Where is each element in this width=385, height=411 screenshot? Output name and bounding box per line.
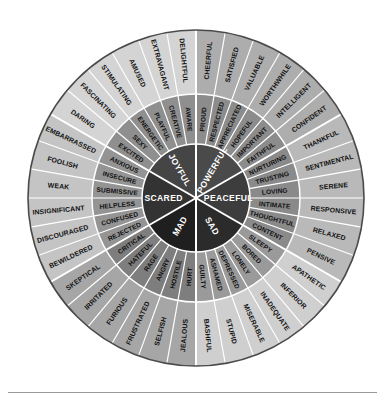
feelings-wheel-svg: CHEERFULSATISFIEDVALUABLEWORTHWHILEINTEL…: [0, 0, 385, 411]
core-label-scared: SCARED: [144, 193, 182, 203]
core-label-peaceful: PEACEFUL: [204, 193, 253, 203]
feelings-wheel-diagram: CHEERFULSATISFIEDVALUABLEWORTHWHILEINTEL…: [0, 0, 385, 411]
footer-divider-rule: [8, 392, 377, 393]
